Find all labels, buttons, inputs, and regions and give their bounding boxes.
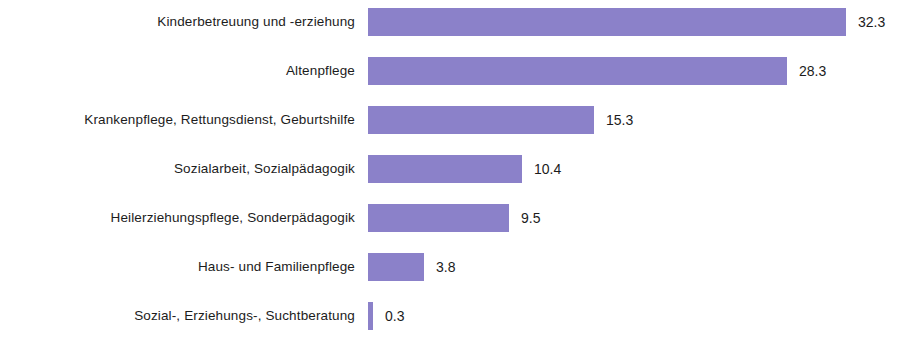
bar-value-label: 32.3 <box>858 8 885 36</box>
category-label: Altenpflege <box>0 57 355 85</box>
chart-bar-row: Heilerziehungspflege, Sonderpädagogik9.5 <box>0 204 897 232</box>
bar <box>368 204 509 232</box>
chart-bar-row: Sozial-, Erziehungs-, Suchtberatung0.3 <box>0 302 897 330</box>
chart-bar-row: Haus- und Familienpflege3.8 <box>0 253 897 281</box>
category-label: Kinderbetreuung und -erziehung <box>0 8 355 36</box>
category-label: Heilerziehungspflege, Sonderpädagogik <box>0 204 355 232</box>
bar-value-label: 0.3 <box>385 302 404 330</box>
chart-bar-row: Krankenpflege, Rettungsdienst, Geburtshi… <box>0 106 897 134</box>
bar <box>368 57 787 85</box>
bar-track: 32.3 <box>368 8 897 36</box>
chart-bar-row: Altenpflege28.3 <box>0 57 897 85</box>
chart-bar-row: Sozialarbeit, Sozialpädagogik10.4 <box>0 155 897 183</box>
chart-plot-area: Kinderbetreuung und -erziehung32.3Altenp… <box>0 0 897 342</box>
bar-value-label: 9.5 <box>521 204 540 232</box>
bar-track: 9.5 <box>368 204 897 232</box>
bar <box>368 253 424 281</box>
bar-track: 28.3 <box>368 57 897 85</box>
chart-bar-row: Kinderbetreuung und -erziehung32.3 <box>0 8 897 36</box>
bar-value-label: 3.8 <box>436 253 455 281</box>
category-label: Sozial-, Erziehungs-, Suchtberatung <box>0 302 355 330</box>
bar <box>368 106 594 134</box>
bar-track: 15.3 <box>368 106 897 134</box>
bar-track: 10.4 <box>368 155 897 183</box>
bar-value-label: 10.4 <box>534 155 561 183</box>
category-label: Haus- und Familienpflege <box>0 253 355 281</box>
bar <box>368 155 522 183</box>
category-label: Sozialarbeit, Sozialpädagogik <box>0 155 355 183</box>
category-label: Krankenpflege, Rettungsdienst, Geburtshi… <box>0 106 355 134</box>
bar <box>368 8 846 36</box>
bar-track: 0.3 <box>368 302 897 330</box>
horizontal-bar-chart: Kinderbetreuung und -erziehung32.3Altenp… <box>0 0 897 342</box>
bar-track: 3.8 <box>368 253 897 281</box>
bar-value-label: 28.3 <box>799 57 826 85</box>
bar-value-label: 15.3 <box>606 106 633 134</box>
bar <box>368 302 373 330</box>
